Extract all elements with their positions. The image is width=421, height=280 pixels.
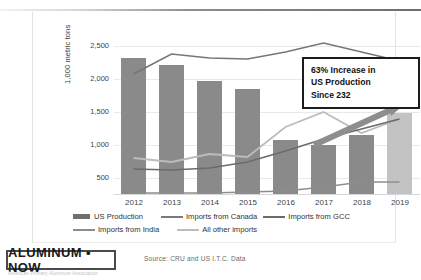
y-tick-1500: 1,500 [75, 107, 109, 116]
legend-swatch-line-icon [177, 229, 199, 231]
legend-swatch-line-icon [73, 229, 95, 231]
x-tick-2019: 2019 [380, 198, 420, 207]
chart-plot-area: 1,000 metric tons 2,500 2,000 1,500 1,00… [69, 28, 421, 208]
legend-item-imports-gcc: Imports from GCC [263, 212, 350, 221]
y-tick-500: 500 [75, 173, 109, 182]
y-tick-2500: 2,500 [75, 41, 109, 50]
chart-legend: US Production Imports from Canada Import… [73, 212, 421, 238]
legend-label-imports-india: Imports from India [98, 225, 159, 234]
legend-item-imports-india: Imports from India [73, 225, 159, 234]
legend-label-imports-gcc: Imports from GCC [288, 212, 350, 221]
legend-item-all-other-imports: All other imports [177, 225, 257, 234]
x-tick-2015: 2015 [228, 198, 268, 207]
y-axis-label: 1,000 metric tons [63, 25, 72, 84]
line-imports-india [134, 182, 400, 193]
annotation-line-2: US Production [311, 76, 412, 88]
x-tick-2018: 2018 [342, 198, 382, 207]
annotation-callout: 63% Increase in US Production Since 232 [302, 57, 420, 109]
line-all-other-imports [134, 112, 400, 162]
legend-swatch-bar-icon [73, 214, 90, 219]
line-series-svg [114, 28, 420, 194]
x-tick-2017: 2017 [304, 198, 344, 207]
logo-subtitle: American Primary Aluminum Association [8, 271, 138, 276]
legend-label-all-other-imports: All other imports [202, 225, 257, 234]
legend-item-imports-canada: Imports from Canada [161, 212, 257, 221]
series-container: 2012 2013 2014 2015 2016 2017 2018 2019 [114, 28, 420, 194]
source-note: Source: CRU and US I.T.C. Data [144, 255, 246, 262]
legend-label-us-production: US Production [94, 212, 143, 221]
x-tick-2014: 2014 [190, 198, 230, 207]
y-tick-1000: 1,000 [75, 140, 109, 149]
legend-row-1: US Production Imports from Canada Import… [73, 212, 421, 221]
y-tick-2000: 2,000 [75, 74, 109, 83]
header-divider [0, 9, 421, 11]
legend-label-imports-canada: Imports from Canada [186, 212, 257, 221]
legend-item-us-production: US Production [73, 212, 143, 221]
aluminum-now-logo: ALUMINUM • NOW [6, 250, 116, 270]
x-tick-2012: 2012 [114, 198, 154, 207]
x-axis-line [114, 194, 420, 195]
annotation-line-1: 63% Increase in [311, 64, 412, 76]
annotation-line-3: Since 232 [311, 89, 412, 101]
x-tick-2016: 2016 [266, 198, 306, 207]
chart-panel: 1,000 metric tons 2,500 2,000 1,500 1,00… [32, 12, 396, 243]
x-tick-2013: 2013 [152, 198, 192, 207]
legend-swatch-line-icon [263, 216, 285, 218]
legend-row-2: Imports from India All other imports [73, 225, 421, 234]
legend-swatch-line-icon [161, 216, 183, 218]
